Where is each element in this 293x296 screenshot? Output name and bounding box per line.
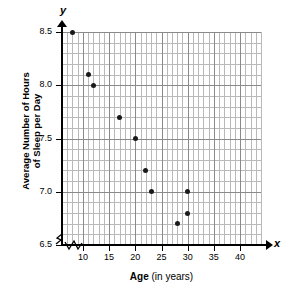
x-axis-arrow-icon xyxy=(266,240,273,250)
y-tick-mark xyxy=(56,192,62,193)
gridline-horizontal xyxy=(62,149,261,150)
gridline-vertical xyxy=(114,32,115,245)
gridline-vertical xyxy=(151,32,152,245)
gridline-vertical xyxy=(120,32,121,245)
gridline-vertical xyxy=(240,32,241,245)
gridline-vertical xyxy=(125,32,126,245)
data-point xyxy=(175,221,180,226)
gridline-vertical xyxy=(99,32,100,245)
x-axis-break-icon xyxy=(64,238,84,252)
data-point xyxy=(86,72,91,77)
gridline-vertical xyxy=(104,32,105,245)
y-axis-title-line2: of Sleep per Day xyxy=(31,21,42,241)
gridline-vertical xyxy=(214,32,215,245)
gridline-horizontal xyxy=(62,43,261,44)
x-tick-mark xyxy=(188,246,189,251)
y-tick-label: 6.5 xyxy=(26,240,52,249)
x-tick-label: 20 xyxy=(124,253,146,262)
y-tick-mark xyxy=(56,32,62,33)
data-point xyxy=(133,136,138,141)
gridline-horizontal xyxy=(62,170,261,171)
gridline-vertical xyxy=(256,32,257,245)
gridline-vertical xyxy=(141,32,142,245)
gridline-horizontal xyxy=(62,32,261,33)
data-point xyxy=(91,83,96,88)
gridline-vertical xyxy=(130,32,131,245)
gridline-vertical xyxy=(230,32,231,245)
gridline-vertical xyxy=(156,32,157,245)
gridline-vertical xyxy=(261,32,262,245)
gridline-vertical xyxy=(193,32,194,245)
gridline-vertical xyxy=(167,32,168,245)
x-tick-mark xyxy=(162,246,163,251)
plot-area xyxy=(62,32,261,245)
gridline-horizontal xyxy=(62,117,261,118)
gridline-vertical xyxy=(177,32,178,245)
data-point xyxy=(70,30,75,35)
gridline-vertical xyxy=(109,32,110,245)
y-axis-title: Average Number of Hours of Sleep per Day xyxy=(20,21,42,241)
gridline-vertical xyxy=(172,32,173,245)
scatter-plot-figure: y x 6.57.07.58.08.5 10152025303540 Avera… xyxy=(0,0,293,296)
gridline-horizontal xyxy=(62,139,261,140)
x-axis-line xyxy=(62,244,267,246)
grid-minor-lines xyxy=(62,32,261,245)
x-tick-label: 15 xyxy=(98,253,120,262)
gridline-vertical xyxy=(83,32,84,245)
gridline-vertical xyxy=(224,32,225,245)
y-axis-letter: y xyxy=(60,5,66,16)
x-axis-title-regular: (in years) xyxy=(149,271,193,282)
gridline-horizontal xyxy=(62,192,261,193)
gridline-vertical xyxy=(78,32,79,245)
gridline-vertical xyxy=(235,32,236,245)
y-axis-title-line1: Average Number of Hours xyxy=(20,21,31,241)
gridline-vertical xyxy=(88,32,89,245)
x-tick-label: 30 xyxy=(177,253,199,262)
gridline-horizontal xyxy=(62,128,261,129)
gridline-vertical xyxy=(162,32,163,245)
gridline-vertical xyxy=(72,32,73,245)
gridline-vertical xyxy=(182,32,183,245)
x-axis-title-bold: Age xyxy=(130,271,149,282)
gridline-horizontal xyxy=(62,107,261,108)
x-tick-mark xyxy=(240,246,241,251)
gridline-horizontal xyxy=(62,213,261,214)
data-point xyxy=(143,168,148,173)
data-point xyxy=(149,189,154,194)
gridline-vertical xyxy=(219,32,220,245)
gridline-horizontal xyxy=(62,234,261,235)
gridline-horizontal xyxy=(62,53,261,54)
x-axis-title: Age (in years) xyxy=(62,272,261,282)
grid-major-lines xyxy=(62,32,261,245)
x-axis-letter: x xyxy=(274,238,280,249)
gridline-vertical xyxy=(203,32,204,245)
gridline-vertical xyxy=(67,32,68,245)
x-tick-mark xyxy=(109,246,110,251)
gridline-vertical xyxy=(245,32,246,245)
gridline-horizontal xyxy=(62,64,261,65)
gridline-horizontal xyxy=(62,96,261,97)
y-axis-arrow-icon xyxy=(57,20,67,27)
data-point xyxy=(185,189,190,194)
data-point xyxy=(185,211,190,216)
gridline-vertical xyxy=(93,32,94,245)
gridline-vertical xyxy=(209,32,210,245)
x-tick-mark xyxy=(135,246,136,251)
y-tick-mark xyxy=(56,85,62,86)
gridline-vertical xyxy=(198,32,199,245)
x-tick-mark xyxy=(214,246,215,251)
gridline-horizontal xyxy=(62,224,261,225)
x-tick-label: 40 xyxy=(229,253,251,262)
gridline-horizontal xyxy=(62,181,261,182)
gridline-vertical xyxy=(146,32,147,245)
x-tick-label: 35 xyxy=(203,253,225,262)
gridline-horizontal xyxy=(62,160,261,161)
gridline-horizontal xyxy=(62,202,261,203)
x-tick-label: 25 xyxy=(151,253,173,262)
gridline-vertical xyxy=(251,32,252,245)
y-axis-line xyxy=(61,26,63,246)
data-point xyxy=(117,115,122,120)
x-tick-label: 10 xyxy=(72,253,94,262)
gridline-horizontal xyxy=(62,75,261,76)
y-tick-mark xyxy=(56,139,62,140)
